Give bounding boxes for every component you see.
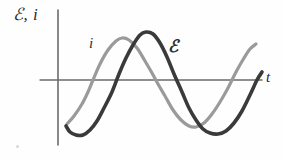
figure-container: ℰ, i t i ℰ xyxy=(0,0,283,159)
emf-curve xyxy=(66,32,262,136)
scan-speck xyxy=(16,145,19,148)
y-axis-label: ℰ, i xyxy=(13,6,38,23)
x-axis-label: t xyxy=(266,70,270,85)
curves-group xyxy=(66,32,262,136)
current-curve xyxy=(67,38,256,127)
plot-canvas xyxy=(0,0,283,159)
axes-group xyxy=(40,10,262,145)
emf-curve-label: ℰ xyxy=(168,38,178,55)
current-curve-label: i xyxy=(89,36,93,51)
